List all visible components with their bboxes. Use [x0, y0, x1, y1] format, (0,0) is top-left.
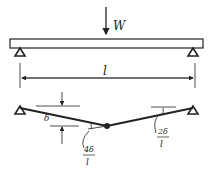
hinge-rotation-denominator: l [86, 157, 89, 167]
right-support-deflected-icon [188, 106, 198, 114]
span-dimension [20, 63, 195, 88]
deflection-dimension [36, 92, 80, 144]
load-label: W [113, 19, 127, 33]
left-support-deflected-icon [15, 106, 25, 114]
span-label: l [103, 64, 107, 78]
hinge-rotation-numerator: 4δ [83, 145, 94, 154]
beam [10, 39, 203, 48]
left-support-icon [15, 48, 25, 56]
right-support-icon [188, 48, 198, 56]
beam-diagram: W l δ 4δ l [0, 0, 209, 179]
support-rotation-numerator: 2δ [157, 127, 168, 136]
support-rotation-denominator: l [160, 139, 163, 149]
deflection-label: δ [44, 113, 49, 123]
